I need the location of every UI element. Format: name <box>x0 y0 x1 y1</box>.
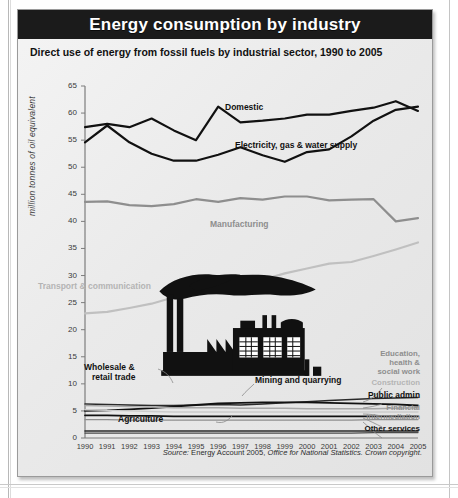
y-tick-15: 15 <box>51 352 77 361</box>
figure-source: Source: Energy Account 2005, Office for … <box>18 448 432 457</box>
y-tick-65: 65 <box>51 81 77 90</box>
series-label-financial-line2: intermediation <box>320 412 420 421</box>
y-tick-35: 35 <box>51 243 77 252</box>
series-label-agriculture: Agriculture <box>118 414 163 424</box>
factory-smokestacks-icon <box>159 274 321 376</box>
series-label-transport: Transport & communication <box>38 281 151 291</box>
page-edge-left <box>8 0 9 498</box>
series-line-manufacturing <box>85 197 418 222</box>
y-tick-60: 60 <box>51 108 77 117</box>
series-label-domestic: Domestic <box>225 102 263 112</box>
plot-area: million tonnes of oil equivalent <box>30 66 422 441</box>
figure-title-bar: Energy consumption by industry <box>18 10 432 39</box>
y-tick-0: 0 <box>51 433 77 442</box>
page-edge-left-inner <box>10 0 11 498</box>
y-tick-5: 5 <box>51 406 77 415</box>
y-tick-45: 45 <box>51 189 77 198</box>
figure-card: Energy consumption by industry Direct us… <box>17 9 433 477</box>
figure-subtitle: Direct use of energy from fossil fuels b… <box>30 46 422 58</box>
source-prefix: Source: <box>163 448 189 457</box>
figure-title: Energy consumption by industry <box>89 15 360 35</box>
series-label-public-admin: Public admin <box>320 391 420 400</box>
series-label-education-line1: Education, <box>320 349 420 358</box>
series-label-construction: Construction <box>320 378 420 387</box>
source-attribution: Office for National Statistics. Crown co… <box>268 448 422 457</box>
page-edge-bottom-inner <box>0 487 458 488</box>
source-text: Energy Account 2005, <box>191 448 265 457</box>
series-label-wholesale-line1: Wholesale & <box>84 362 135 372</box>
series-label-education-line3: social work <box>320 367 420 376</box>
series-label-financial-line1: Financial <box>320 403 420 412</box>
series-label-electricity: Electricity, gas & water supply <box>235 140 357 150</box>
page-edge-right <box>449 0 450 498</box>
y-tick-55: 55 <box>51 135 77 144</box>
page-edge-bottom <box>0 484 458 485</box>
series-label-wholesale-line2: retail trade <box>92 372 135 382</box>
y-tick-30: 30 <box>51 271 77 280</box>
series-line-electricity-gas-water-supply <box>85 107 418 162</box>
y-tick-40: 40 <box>51 216 77 225</box>
series-label-education-line2: health & <box>320 358 420 367</box>
series-label-other-services: Other services <box>320 424 420 433</box>
series-label-manufacturing: Manufacturing <box>210 219 269 229</box>
y-tick-50: 50 <box>51 162 77 171</box>
y-tick-10: 10 <box>51 379 77 388</box>
y-tick-20: 20 <box>51 325 77 334</box>
y-tick-25: 25 <box>51 298 77 307</box>
